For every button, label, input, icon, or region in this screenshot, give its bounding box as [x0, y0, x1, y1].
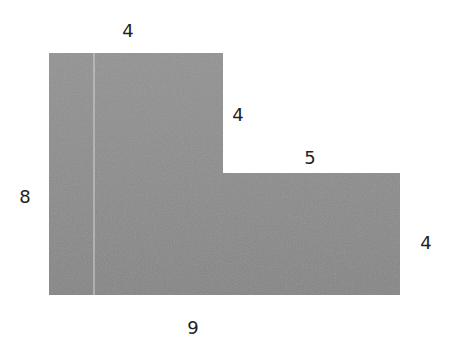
l-shape-polygon [49, 53, 400, 295]
label-left-height: 8 [19, 188, 30, 206]
l-shape-figure [0, 0, 449, 353]
label-bottom-width: 9 [187, 319, 198, 337]
label-inner-horizontal: 5 [304, 149, 315, 167]
label-inner-vertical: 4 [232, 106, 243, 124]
label-right-height: 4 [420, 234, 431, 252]
label-top-width: 4 [122, 22, 133, 40]
